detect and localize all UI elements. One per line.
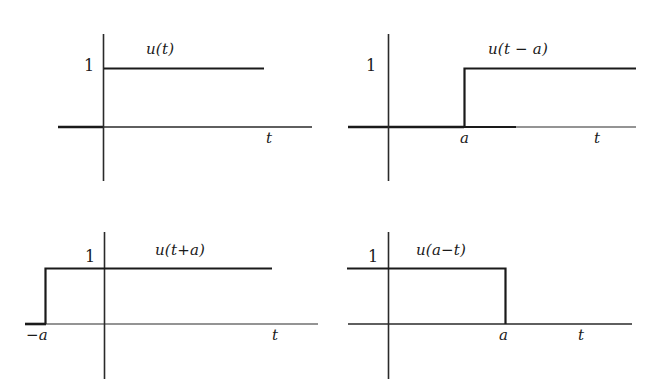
function-label: u(t) (146, 42, 174, 57)
x-axis-label: t (578, 328, 584, 343)
step-trace (347, 269, 506, 325)
tick-label-negative-a: −a (26, 328, 48, 343)
plot-u-of-t (0, 0, 336, 193)
step-trace (465, 69, 637, 128)
amplitude-label: 1 (85, 249, 95, 265)
panel-u-of-t-plus-a: 1 u(t+a) −a t (0, 193, 336, 386)
panel-u-of-t: 1 u(t) t (0, 0, 336, 193)
x-axis-label: t (266, 131, 272, 146)
plot-u-of-t-minus-a (336, 0, 672, 193)
function-label: u(a−t) (416, 243, 466, 258)
panel-u-of-t-minus-a: 1 u(t − a) a t (336, 0, 672, 193)
x-axis-label: t (594, 131, 600, 146)
panel-u-of-a-minus-t: 1 u(a−t) a t (336, 193, 672, 386)
tick-label-a: a (460, 131, 469, 146)
amplitude-label: 1 (368, 249, 378, 265)
plot-u-of-a-minus-t (336, 193, 672, 386)
amplitude-label: 1 (366, 58, 376, 74)
function-label: u(t+a) (155, 243, 205, 258)
step-function-figure: 1 u(t) t 1 u(t − a) a t 1 u(t+a) −a t (0, 0, 672, 386)
step-trace (46, 269, 273, 325)
function-label: u(t − a) (488, 42, 548, 57)
tick-label-a: a (499, 328, 508, 343)
plot-u-of-t-plus-a (0, 193, 336, 386)
amplitude-label: 1 (84, 58, 94, 74)
x-axis-label: t (272, 328, 278, 343)
